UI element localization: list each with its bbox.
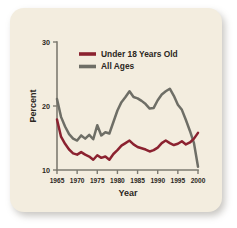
line-chart: 102030 19651970197519801985199019952000 … (0, 0, 237, 228)
legend-label-1: All Ages (101, 61, 135, 71)
legend-label-0: Under 18 Years Old (101, 49, 178, 59)
x-tick-label-1995: 1995 (171, 177, 186, 184)
y-tick-label-10: 10 (42, 166, 50, 175)
y-axis-ticks: 102030 (42, 38, 57, 175)
x-tick-label-1985: 1985 (130, 177, 145, 184)
x-axis-title: Year (118, 188, 138, 198)
x-tick-label-1980: 1980 (110, 177, 125, 184)
x-axis-ticks: 19651970197519801985199019952000 (50, 170, 206, 184)
x-tick-label-1975: 1975 (90, 177, 105, 184)
y-tick-label-30: 30 (42, 38, 50, 47)
x-tick-label-2000: 2000 (191, 177, 206, 184)
y-axis-title: Percent (28, 89, 38, 122)
x-tick-label-1970: 1970 (70, 177, 85, 184)
x-tick-label-1990: 1990 (150, 177, 165, 184)
data-series-group (57, 89, 198, 167)
chart-legend: Under 18 Years OldAll Ages (79, 49, 178, 72)
x-tick-label-1965: 1965 (50, 177, 65, 184)
y-tick-label-20: 20 (42, 102, 50, 111)
chart-card-container: 102030 19651970197519801985199019952000 … (0, 0, 237, 228)
